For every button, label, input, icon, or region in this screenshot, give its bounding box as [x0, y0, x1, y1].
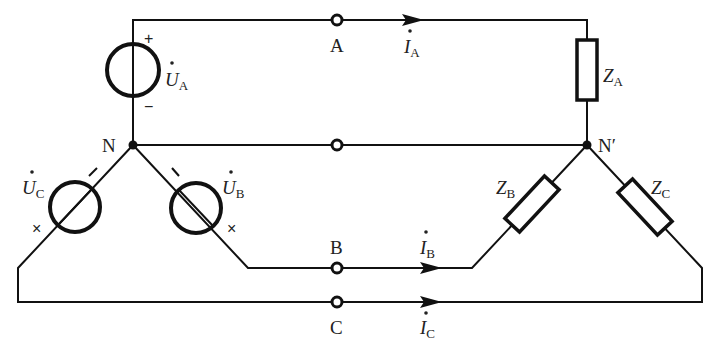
terminal-b [332, 263, 342, 273]
phasor-dot-icon [30, 170, 34, 174]
node-n-label: N [102, 135, 116, 156]
cross-mark: × [32, 220, 41, 237]
impedance-zc: ZC [618, 177, 672, 235]
za-label: ZA [603, 65, 624, 89]
current-ic-label: IC [419, 317, 435, 341]
node-n-prime-label: N′ [598, 135, 616, 156]
current-ib-label: IB [419, 237, 435, 261]
source-uc-label: UC [22, 177, 44, 201]
wire-line-c [18, 145, 702, 302]
current-ia-label: IA [403, 36, 420, 60]
voltage-source-uc: × UC [22, 168, 100, 237]
wire-line-a [133, 20, 587, 145]
terminal-c [332, 297, 342, 307]
voltage-source-ua: + − UA [107, 30, 189, 115]
source-ua-label: UA [165, 69, 189, 93]
cross-mark: × [227, 220, 236, 237]
phasor-dot-icon [170, 61, 174, 65]
source-ub-label: UB [222, 177, 245, 201]
node-n-prime [583, 141, 592, 150]
phasor-dot-icon [424, 230, 428, 234]
terminal-a [332, 15, 342, 25]
phasor-dot-icon [229, 170, 233, 174]
zc-label: ZC [651, 177, 670, 201]
phasor-dot-icon [408, 29, 412, 33]
terminal-c-label: C [330, 317, 343, 338]
terminal-neutral [332, 140, 342, 150]
voltage-source-ub: × UB [171, 168, 245, 237]
plus-mark: + [144, 30, 153, 47]
terminal-a-label: A [330, 35, 344, 56]
phasor-dot-icon [424, 311, 428, 315]
impedance-za: ZA [577, 40, 624, 100]
terminal-b-label: B [330, 237, 343, 258]
impedance-zb: ZB [496, 176, 559, 232]
zb-label: ZB [496, 177, 516, 201]
three-phase-circuit-diagram: + − UA × UC × UB N N′ ZA ZB ZC [0, 0, 719, 352]
minus-mark: − [144, 98, 153, 115]
node-n [129, 141, 138, 150]
